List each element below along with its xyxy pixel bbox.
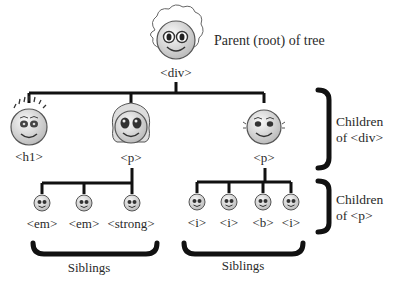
bracket-children-of-p <box>318 181 329 232</box>
small-face-icon <box>124 195 140 211</box>
node-label-em-2: <em> <box>69 217 100 230</box>
node-label-div: <div> <box>160 66 191 79</box>
siblings-right-label: Siblings <box>222 259 265 272</box>
node-label-strong: <strong> <box>107 217 154 230</box>
spiky-hair-face-icon <box>11 96 47 145</box>
curly-hair-face-icon <box>112 103 149 143</box>
node-label-b: <b> <box>252 216 273 229</box>
bracket-children-of-div <box>318 90 329 168</box>
small-face-icon <box>255 194 271 210</box>
root-caption: Parent (root) of tree <box>214 34 325 48</box>
node-label-p-left: <p> <box>120 151 141 164</box>
bald-face-icon <box>243 110 285 144</box>
small-face-icon <box>189 194 205 210</box>
bracket-siblings-right <box>184 243 303 254</box>
node-label-i-3: <i> <box>282 216 300 229</box>
node-label-i-1: <i> <box>188 216 206 229</box>
root-face-icon <box>150 5 203 59</box>
small-face-icon <box>283 194 299 210</box>
children-of-div-label: Children of <div> <box>336 114 383 146</box>
small-face-icon <box>221 194 237 210</box>
node-label-p-right: <p> <box>253 151 274 164</box>
node-label-em-1: <em> <box>27 217 58 230</box>
small-face-icon <box>34 195 50 211</box>
siblings-left-label: Siblings <box>68 261 111 274</box>
small-faces <box>34 194 299 211</box>
node-label-h1: <h1> <box>15 150 43 163</box>
node-label-i-2: <i> <box>220 216 238 229</box>
small-face-icon <box>76 195 92 211</box>
bracket-siblings-left <box>33 243 157 254</box>
children-of-p-label: Children of <p> <box>336 192 383 224</box>
